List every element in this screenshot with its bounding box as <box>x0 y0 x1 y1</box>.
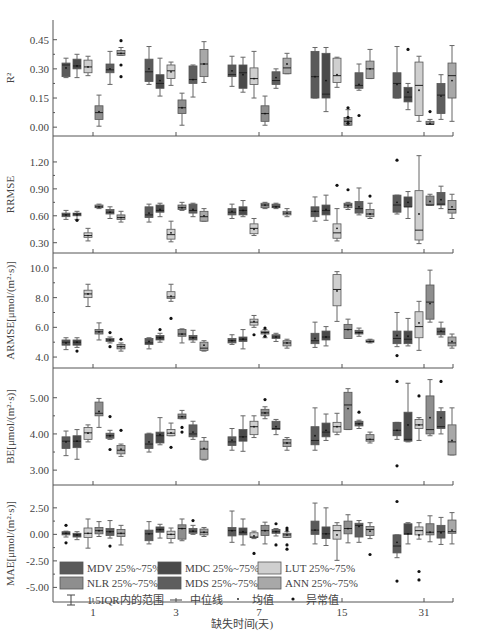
box-lut <box>415 156 423 244</box>
box-ann <box>283 53 291 73</box>
box-lut <box>333 523 341 561</box>
y-tick-label: 5.00 <box>30 392 50 404</box>
box-ann <box>448 194 456 218</box>
box-nlr <box>426 516 434 542</box>
box-lut <box>84 425 92 442</box>
box-lut <box>84 56 92 75</box>
box-mdc <box>156 328 164 342</box>
box-lut <box>84 284 92 306</box>
box-mds <box>189 203 197 216</box>
box-mds <box>272 419 280 434</box>
panel-0: 0.000.150.300.45R² <box>4 20 456 136</box>
box-mdc <box>73 54 81 77</box>
box-nlr <box>95 95 103 126</box>
box-mdv <box>311 322 319 347</box>
box-ann <box>117 525 125 545</box>
box-mdc <box>322 47 330 111</box>
box-mdc <box>156 418 164 445</box>
box-mds <box>437 75 445 120</box>
box-nlr <box>95 204 103 208</box>
box-mdc <box>404 523 412 544</box>
box-ann <box>366 49 374 78</box>
svg-text:MDC 25%~75%: MDC 25%~75% <box>185 562 259 574</box>
box-nlr <box>426 110 434 124</box>
box-mds <box>437 517 445 544</box>
x-tick-label: 7 <box>256 606 262 618</box>
box-nlr <box>344 319 352 338</box>
box-mdc <box>404 318 412 345</box>
box-ann <box>283 526 291 550</box>
box-mds <box>106 207 114 219</box>
box-nlr <box>261 398 269 419</box>
box-ann <box>366 523 374 556</box>
box-nlr <box>344 106 352 125</box>
box-mdv <box>62 58 70 77</box>
y-tick-label: 3.00 <box>30 464 50 476</box>
box-lut <box>250 531 258 555</box>
legend-item-mds: MDS 25%~75% <box>158 577 258 589</box>
box-lut <box>415 301 423 350</box>
box-mdc <box>73 430 81 460</box>
box-mdc <box>239 416 247 451</box>
box-nlr <box>426 194 434 205</box>
y-tick-label: 4.00 <box>30 428 50 440</box>
svg-text:MDV 25%~75%: MDV 25%~75% <box>87 562 162 574</box>
box-mdc <box>156 58 164 96</box>
box-nlr <box>426 270 434 322</box>
box-mds <box>355 411 363 429</box>
svg-text:异常值: 异常值 <box>306 594 339 606</box>
y-tick-label: 0.00 <box>30 121 50 133</box>
legend-item-mdv: MDV 25%~75% <box>60 562 162 574</box>
box-ann <box>200 341 208 351</box>
box-mdv <box>228 335 236 345</box>
box-lut <box>333 413 341 434</box>
box-nlr <box>178 202 186 210</box>
box-ann <box>366 432 374 443</box>
box-ann <box>117 429 125 457</box>
box-ann <box>200 527 208 536</box>
box-mds <box>106 51 114 84</box>
box-nlr <box>178 410 186 433</box>
y-tick-label: 0.30 <box>30 63 50 75</box>
svg-text:中位线: 中位线 <box>190 593 223 606</box>
y-tick-label: 0.00 <box>30 528 50 540</box>
box-mdv <box>311 503 319 544</box>
box-mdv <box>145 204 153 222</box>
y-tick-label: 10.0 <box>30 262 50 274</box>
y-axis-label: RRMSE <box>4 176 16 214</box>
legend-item-mdc: MDC 25%~75% <box>158 562 259 574</box>
y-tick-label: 0.60 <box>30 210 50 222</box>
box-mdc <box>322 508 330 546</box>
box-mdc <box>404 192 412 219</box>
box-ann <box>117 39 125 78</box>
legend-item-mean: 均值 <box>237 594 274 606</box>
y-axis-label: R² <box>4 72 16 83</box>
box-mdc <box>73 338 81 353</box>
box-mdv <box>145 338 153 349</box>
x-tick-label: 3 <box>173 606 179 618</box>
box-ann <box>283 339 291 348</box>
y-tick-label: -5.00 <box>26 581 49 593</box>
box-mds <box>355 521 363 543</box>
box-mdv <box>393 47 401 99</box>
box-lut <box>250 315 258 336</box>
box-mdc <box>73 532 81 540</box>
box-nlr <box>95 398 103 427</box>
box-mdv <box>228 204 236 218</box>
box-mdv <box>145 433 153 452</box>
x-tick-label: 31 <box>419 606 430 618</box>
box-mds <box>437 322 445 337</box>
box-ann <box>448 46 456 122</box>
box-nlr <box>178 93 186 125</box>
panel-2: 4.06.08.010.0ARMSE[μmol/(m²·s)] <box>4 253 456 368</box>
legend-item-median: 中位线 <box>170 593 223 606</box>
svg-text:LUT 25%~75%: LUT 25%~75% <box>285 562 355 574</box>
y-axis-label: MAE[μmol/(m²·s)] <box>4 501 17 586</box>
y-tick-label: 0.15 <box>30 92 50 104</box>
legend-item-whisker: 1.5IQR内的范围 <box>67 593 164 606</box>
legend-item-nlr: NLR 25%~75% <box>60 577 158 589</box>
box-lut <box>167 528 175 543</box>
box-mdc <box>156 524 164 538</box>
box-ann <box>366 339 374 343</box>
box-ann <box>117 211 125 222</box>
